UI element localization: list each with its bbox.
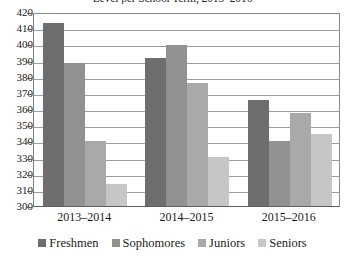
y-axis-tick-mark xyxy=(27,207,32,208)
bar xyxy=(85,141,106,206)
legend-label: Seniors xyxy=(269,236,307,250)
legend-item: Sophomores xyxy=(112,236,186,250)
bar xyxy=(311,134,332,206)
chart-title: Level per School Term, 2013–2016 xyxy=(0,0,345,4)
legend-item: Seniors xyxy=(258,236,307,250)
bar-group xyxy=(239,14,341,206)
bar xyxy=(64,63,85,206)
y-axis-tick-mark xyxy=(27,45,32,46)
y-axis-tick-mark xyxy=(27,191,32,192)
legend-item: Juniors xyxy=(198,236,245,250)
bar-group xyxy=(136,14,238,206)
x-axis-tick-label: 2013–2014 xyxy=(33,209,135,225)
bar xyxy=(43,23,64,206)
y-axis: 420410400390380370360350340330320310300 xyxy=(0,13,33,207)
y-axis-tick-mark xyxy=(27,13,32,14)
legend-label: Sophomores xyxy=(123,236,186,250)
y-axis-tick-mark xyxy=(27,78,32,79)
legend-item: Freshmen xyxy=(38,236,98,250)
bar xyxy=(208,157,229,206)
bar xyxy=(106,184,127,206)
bar xyxy=(187,83,208,206)
bar-chart: Level per School Term, 2013–2016 4204104… xyxy=(0,0,345,257)
y-axis-tick-mark xyxy=(27,29,32,30)
y-axis-tick-mark xyxy=(27,126,32,127)
bar xyxy=(166,45,187,206)
x-axis-tick-label: 2015–2016 xyxy=(238,209,340,225)
legend-label: Juniors xyxy=(209,236,245,250)
plot-area xyxy=(33,13,340,207)
bar xyxy=(145,58,166,206)
y-axis-tick-mark xyxy=(27,159,32,160)
y-axis-tick-mark xyxy=(27,142,32,143)
y-axis-tick-mark xyxy=(27,94,32,95)
y-axis-tick-mark xyxy=(27,175,32,176)
x-axis: 2013–20142014–20152015–2016 xyxy=(33,209,340,227)
bar xyxy=(269,141,290,206)
y-axis-tick-mark xyxy=(27,110,32,111)
legend-swatch-icon xyxy=(38,239,46,247)
legend-swatch-icon xyxy=(258,239,266,247)
bar-group xyxy=(34,14,136,206)
bar xyxy=(290,113,311,206)
legend-swatch-icon xyxy=(198,239,206,247)
bar xyxy=(248,100,269,206)
legend-swatch-icon xyxy=(112,239,120,247)
x-axis-tick-label: 2014–2015 xyxy=(135,209,237,225)
y-axis-tick-mark xyxy=(27,62,32,63)
chart-legend: FreshmenSophomoresJuniorsSeniors xyxy=(0,236,345,250)
legend-label: Freshmen xyxy=(49,236,98,250)
